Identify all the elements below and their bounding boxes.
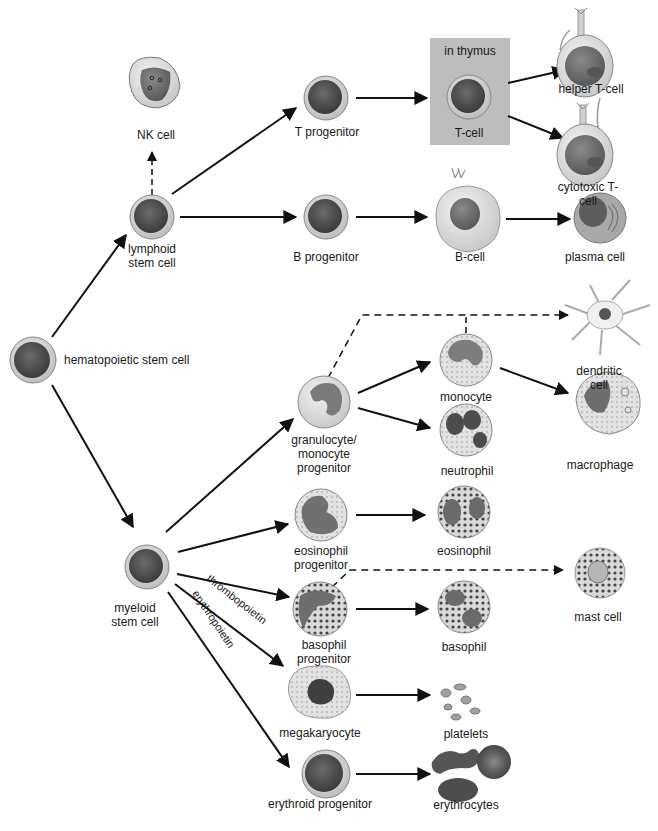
cell-megakaryocyte — [288, 666, 350, 718]
cell-basoprog — [293, 582, 347, 636]
label-monocyte: monocyte — [440, 390, 492, 404]
cell-neutrophil — [440, 404, 492, 456]
label-platelets: platelets — [444, 727, 489, 741]
edge-gmp-neutrophil — [358, 408, 430, 428]
edge-myeloid-eryprog — [168, 592, 289, 767]
cell-platelets — [441, 684, 480, 720]
cell-myeloid — [125, 545, 169, 589]
label-eoprog: eosinophil progenitor — [294, 544, 348, 572]
cell-eryprog — [302, 750, 350, 798]
edge-basoprog-mast — [332, 570, 563, 587]
cell-tcell — [447, 75, 491, 119]
label-dendritic: dendritic cell — [570, 364, 629, 392]
cell-monocyte — [440, 334, 492, 386]
edge-tcell-helper — [508, 70, 565, 83]
cell-eoprog — [295, 489, 347, 541]
edge-hsc-lymphoid — [52, 235, 126, 337]
label-mast: mast cell — [574, 610, 621, 624]
label-helper: helper T-cell — [558, 82, 623, 96]
cell-cytotoxic-t — [557, 98, 613, 186]
cell-eosinophil — [438, 486, 490, 538]
label-tprog: T progenitor — [295, 125, 359, 139]
label-bprog: B progenitor — [293, 250, 358, 264]
edge-myeloid-eoprog — [178, 524, 288, 552]
label-mega: megakaryocyte — [279, 726, 360, 740]
label-eosinophil: eosinophil — [437, 544, 491, 558]
label-myeloid: myeloid stem cell — [111, 601, 158, 629]
cell-nk — [129, 57, 180, 108]
edge-monocyte-macrophage — [500, 368, 568, 393]
label-basoprog: basophil progenitor — [297, 638, 351, 666]
cell-basophil — [438, 581, 490, 633]
edge-lymphoid-tprog — [172, 108, 296, 194]
cell-bprog — [304, 195, 348, 239]
label-hsc: hematopoietic stem cell — [64, 353, 189, 367]
label-gmp: granulocyte/ monocyte progenitor — [291, 433, 356, 475]
label-neutrophil: neutrophil — [441, 464, 494, 478]
cell-hsc — [10, 337, 56, 383]
cell-dendritic — [565, 280, 650, 355]
label-erythrocytes: erythrocytes — [433, 798, 498, 812]
label-cytotoxic: cytotoxic T-cell — [553, 180, 623, 208]
label-plasma: plasma cell — [565, 250, 625, 264]
edge-tcell-cytotoxic — [508, 116, 563, 138]
cell-gmp — [298, 376, 350, 428]
edge-hsc-myeloid — [52, 385, 133, 527]
cell-tprog — [304, 76, 348, 120]
edge-gmp-monocyte — [358, 362, 430, 393]
hematopoiesis-diagram: in thymus — [0, 0, 658, 831]
label-eryprog: erythroid progenitor — [268, 797, 372, 811]
label-macrophage: macrophage — [567, 458, 634, 472]
label-lymphoid: lymphoid stem cell — [128, 242, 176, 270]
cell-lymphoid — [130, 195, 174, 239]
label-tcell: T-cell — [455, 126, 484, 140]
label-nk: NK cell — [137, 128, 175, 142]
cell-erythrocytes — [432, 745, 511, 802]
cell-b — [436, 168, 500, 252]
label-basophil: basophil — [442, 640, 487, 654]
cell-mast — [575, 548, 625, 598]
edge-myeloid-gmp — [166, 419, 293, 532]
label-bcell: B-cell — [455, 250, 485, 264]
